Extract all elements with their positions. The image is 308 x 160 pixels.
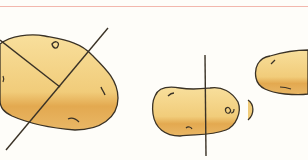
large-potato — [0, 28, 118, 150]
partial-potato — [248, 50, 308, 120]
potato-illustration — [0, 0, 308, 160]
small-potato — [153, 55, 240, 156]
